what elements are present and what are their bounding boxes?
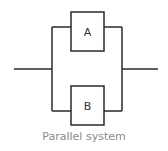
block-a-label: A [84,26,92,39]
diagram-caption: Parallel system [0,130,168,143]
block-b-label: B [84,100,92,113]
parallel-system-diagram: A B [0,0,168,151]
